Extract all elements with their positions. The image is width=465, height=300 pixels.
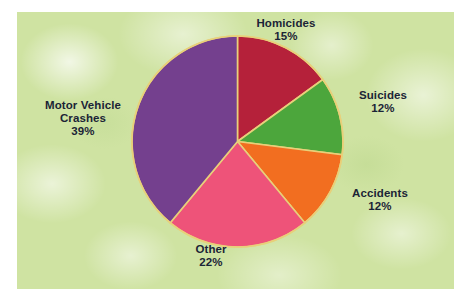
pie-label-mvc-name-line1: Motor Vehicle	[45, 99, 121, 111]
pie-label-motor-vehicle-crashes: Motor Vehicle Crashes 39%	[24, 99, 142, 138]
chart-screenshot: Homicides 15% Suicides 12% Accidents 12%…	[0, 0, 465, 300]
pie-chart	[131, 35, 344, 248]
pie-label-mvc-name-line2: Crashes	[24, 112, 142, 125]
pie-label-other-name: Other	[195, 243, 226, 255]
pie-label-homicides-name: Homicides	[256, 17, 315, 29]
pie-label-suicides: Suicides 12%	[340, 89, 426, 115]
pie-label-accidents-name: Accidents	[352, 187, 408, 199]
pie-label-homicides-value: 15%	[238, 30, 334, 43]
pie-label-accidents-value: 12%	[332, 200, 428, 213]
pie-label-accidents: Accidents 12%	[332, 187, 428, 213]
pie-label-suicides-name: Suicides	[359, 89, 407, 101]
pie-chart-svg	[131, 35, 344, 248]
pie-label-other-value: 22%	[176, 256, 246, 269]
pie-label-mvc-value: 39%	[24, 125, 142, 138]
pie-label-other: Other 22%	[176, 243, 246, 269]
pie-label-suicides-value: 12%	[340, 102, 426, 115]
pie-label-homicides: Homicides 15%	[238, 17, 334, 43]
